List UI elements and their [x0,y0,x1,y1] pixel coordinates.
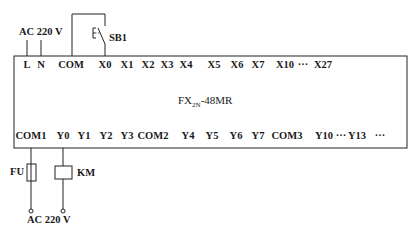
sb1-contact [98,28,105,44]
terminal-label: X4 [180,59,193,71]
power-input-label: AC 220 V [19,26,63,38]
terminal-label: Y6 [230,130,243,142]
terminal-icon [61,209,65,213]
terminal-label: X7 [252,59,265,71]
terminal-label: Y3 [121,130,134,142]
model-prefix: FX [178,94,192,106]
terminal-label: X5 [208,59,221,71]
terminal-icon [29,209,33,213]
terminal-label: ··· [336,130,347,142]
output-supply-label: AC 220 V [27,214,71,226]
fuse-label: FU [10,166,24,178]
terminal-label: Y4 [182,130,195,142]
terminal-label: Y2 [100,130,113,142]
coil-icon [55,166,72,179]
terminal-label: COM2 [138,130,169,142]
terminal-label: X6 [231,59,244,71]
terminal-label: Y13 [348,130,366,142]
terminal-label: Y10 [315,130,333,142]
terminal-label: X10 [276,59,294,71]
model-suffix: -48MR [201,94,233,106]
terminal-label: Y7 [252,130,265,142]
terminal-label: Y0 [57,130,70,142]
plc-model-label: FX2N-48MR [178,94,232,109]
terminal-label: ··· [298,59,309,71]
terminal-label: X27 [314,59,332,71]
terminal-label: COM [58,59,84,71]
switch-label: SB1 [109,32,127,44]
terminal-label: COM3 [272,130,303,142]
terminal-label: N [37,59,45,71]
model-subscript: 2N [192,101,201,109]
terminal-label: L [23,59,30,71]
terminal-label: Y1 [78,130,91,142]
terminal-label: ··· [375,130,386,142]
coil-label: KM [77,167,95,179]
terminal-label: X0 [99,59,112,71]
terminal-label: Y5 [206,130,219,142]
terminal-label: COM1 [16,130,47,142]
terminal-label: X3 [161,59,174,71]
terminal-label: X1 [121,59,134,71]
terminal-label: X2 [142,59,155,71]
